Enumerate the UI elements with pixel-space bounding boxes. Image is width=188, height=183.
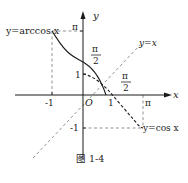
svg-text:2: 2 [123,83,129,93]
label-cos: y=cos x [142,123,179,133]
figure-caption: 图 1-4 [76,153,104,164]
svg-text:2: 2 [93,56,99,66]
label-arccos: y=arccos x [5,25,60,36]
label-y-one: 1 [75,70,81,80]
label-x-pi-half: π 2 [121,71,131,93]
x-axis-label: x [173,89,179,100]
label-x-one: 1 [108,98,114,108]
x-axis-arrow-icon [164,93,172,98]
label-y-neg-one: -1 [70,123,79,133]
origin-label: O [85,97,93,108]
svg-text:π: π [92,44,98,54]
label-y-pi-half: π 2 [91,44,101,66]
diagram: y=arccos x y x π π 2 π 2 y=x 1 -1 O 1 π … [0,0,188,183]
svg-text:π: π [122,71,128,81]
label-y-pi: π [72,22,78,32]
label-x-pi: π [145,98,151,108]
y-axis-label: y [92,10,99,21]
label-identity: y=x [138,38,157,48]
y-axis-arrow-icon [81,11,86,19]
label-x-neg-one: -1 [45,98,54,108]
